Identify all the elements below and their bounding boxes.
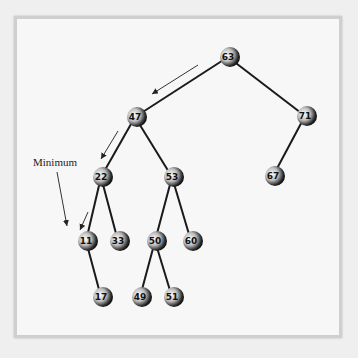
tree-nodes: 63477122536711335060174951 bbox=[78, 47, 317, 307]
arrow-minimum-pointer bbox=[57, 172, 67, 226]
tree-node-50: 50 bbox=[147, 231, 167, 251]
node-value: 51 bbox=[166, 292, 179, 302]
tree-node-22: 22 bbox=[93, 167, 113, 187]
node-value: 71 bbox=[299, 111, 312, 121]
node-value: 17 bbox=[95, 292, 108, 302]
arrow-47-to-22 bbox=[101, 131, 118, 159]
tree-node-53: 53 bbox=[164, 167, 184, 187]
tree-node-17: 17 bbox=[93, 287, 113, 307]
node-value: 22 bbox=[95, 172, 108, 182]
tree-node-71: 71 bbox=[297, 106, 317, 126]
tree-node-51: 51 bbox=[164, 287, 184, 307]
arrow-63-to-47 bbox=[152, 65, 198, 94]
tree-node-11: 11 bbox=[78, 231, 98, 251]
node-value: 33 bbox=[112, 236, 125, 246]
tree-node-33: 33 bbox=[110, 231, 130, 251]
node-value: 50 bbox=[149, 236, 162, 246]
edge-63-47 bbox=[135, 57, 228, 117]
node-value: 47 bbox=[129, 112, 142, 122]
tree-node-67: 67 bbox=[265, 166, 285, 186]
node-value: 60 bbox=[185, 236, 198, 246]
node-value: 53 bbox=[166, 172, 179, 182]
bst-diagram: Minimum 63477122536711335060174951 bbox=[0, 0, 358, 358]
tree-node-63: 63 bbox=[220, 47, 240, 67]
tree-node-60: 60 bbox=[183, 231, 203, 251]
node-value: 49 bbox=[134, 292, 147, 302]
edge-63-71 bbox=[228, 57, 305, 116]
minimum-label: Minimum bbox=[33, 156, 77, 168]
node-value: 11 bbox=[80, 236, 93, 246]
arrow-22-to-11 bbox=[80, 212, 88, 230]
node-value: 67 bbox=[267, 171, 280, 181]
tree-node-47: 47 bbox=[127, 107, 147, 127]
node-value: 63 bbox=[222, 52, 235, 62]
tree-node-49: 49 bbox=[132, 287, 152, 307]
